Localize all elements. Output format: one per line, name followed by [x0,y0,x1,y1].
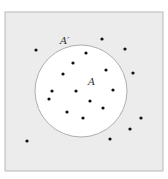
point [81,116,84,119]
venn-diagram: A′ A [0,0,168,179]
point [128,127,131,130]
point [84,51,87,54]
point [65,110,68,113]
point [50,89,53,92]
point [111,88,114,91]
point [61,72,64,75]
point [123,47,126,50]
point [101,106,104,109]
point [25,139,28,142]
point [108,137,111,140]
point [104,68,107,71]
point [47,97,50,100]
point [74,89,77,92]
point [139,116,142,119]
complement-label: A′ [59,35,70,46]
point [131,71,134,74]
point [88,99,91,102]
point [100,37,103,40]
set-label: A [87,76,95,87]
point [71,61,74,64]
point [34,48,37,51]
